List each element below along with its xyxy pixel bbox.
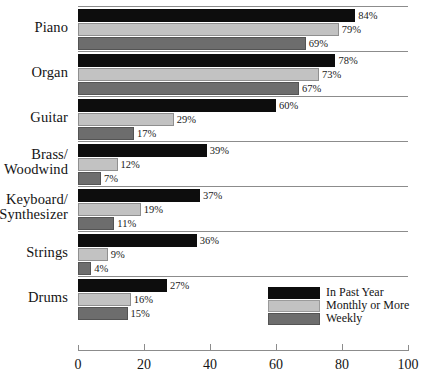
bar-value-label: 7% bbox=[101, 172, 118, 185]
legend-color-swatch bbox=[268, 287, 320, 299]
category-label-line: Woodwind bbox=[0, 162, 68, 177]
bar-weekly bbox=[78, 172, 101, 185]
category-label-line: Brass/ bbox=[0, 147, 68, 162]
group-separator-line bbox=[78, 186, 408, 187]
axis-tick-label: 100 bbox=[388, 357, 421, 373]
bar-value-label: 4% bbox=[91, 262, 108, 275]
bar-value-label: 16% bbox=[131, 293, 153, 306]
bar-monthly-or-more bbox=[78, 158, 118, 171]
bar-monthly-or-more bbox=[78, 203, 141, 216]
bar-value-label: 69% bbox=[306, 37, 328, 50]
bar-value-label: 17% bbox=[134, 127, 156, 140]
category-label: Brass/Woodwind bbox=[0, 147, 68, 177]
axis-tick-label: 80 bbox=[322, 357, 362, 373]
chart-group-row: Piano84%79%69% bbox=[0, 6, 421, 51]
bar-value-label: 60% bbox=[276, 99, 298, 112]
bar-value-label: 15% bbox=[128, 307, 150, 320]
chart-group-row: Organ78%73%67% bbox=[0, 51, 421, 96]
group-separator-line bbox=[78, 141, 408, 142]
chart-group-row: Guitar60%29%17% bbox=[0, 96, 421, 141]
axis-tick bbox=[144, 344, 145, 350]
bar-value-label: 11% bbox=[114, 217, 136, 230]
group-separator-line bbox=[78, 276, 408, 277]
axis-tick bbox=[210, 344, 211, 350]
group-separator-line bbox=[78, 96, 408, 97]
bar-value-label: 84% bbox=[355, 9, 377, 22]
bar-value-label: 39% bbox=[207, 144, 229, 157]
category-label: Guitar bbox=[0, 110, 68, 125]
category-label-line: Synthesizer bbox=[0, 207, 68, 222]
bar-value-label: 36% bbox=[197, 234, 219, 247]
bar-value-label: 67% bbox=[299, 82, 321, 95]
bar-value-label: 12% bbox=[118, 158, 140, 171]
bar-value-label: 37% bbox=[200, 189, 222, 202]
bar-weekly bbox=[78, 37, 306, 50]
bar-chart: Piano84%79%69%Organ78%73%67%Guitar60%29%… bbox=[0, 0, 421, 385]
group-separator-line bbox=[78, 6, 408, 7]
axis-tick-label: 0 bbox=[58, 357, 98, 373]
legend-color-swatch bbox=[268, 313, 320, 325]
bar-monthly-or-more bbox=[78, 248, 108, 261]
category-label: Keyboard/Synthesizer bbox=[0, 192, 68, 222]
axis-end-cap bbox=[78, 345, 79, 351]
category-label-line: Guitar bbox=[0, 110, 68, 125]
category-label-line: Piano bbox=[0, 20, 68, 35]
bar-in-past-year bbox=[78, 9, 355, 22]
axis-tick-label: 40 bbox=[190, 357, 230, 373]
bar-monthly-or-more bbox=[78, 68, 319, 81]
bar-in-past-year bbox=[78, 279, 167, 292]
axis-end-cap bbox=[408, 345, 409, 351]
bar-value-label: 73% bbox=[319, 68, 341, 81]
group-separator-line bbox=[78, 231, 408, 232]
bar-in-past-year bbox=[78, 234, 197, 247]
category-label-line: Drums bbox=[0, 290, 68, 305]
legend-label: Weekly bbox=[326, 312, 362, 325]
bar-value-label: 9% bbox=[108, 248, 125, 261]
bar-monthly-or-more bbox=[78, 113, 174, 126]
bar-weekly bbox=[78, 82, 299, 95]
axis-tick-label: 20 bbox=[124, 357, 164, 373]
category-label-line: Organ bbox=[0, 65, 68, 80]
bar-in-past-year bbox=[78, 54, 335, 67]
chart-group-row: Keyboard/Synthesizer37%19%11% bbox=[0, 186, 421, 231]
category-label: Piano bbox=[0, 20, 68, 35]
axis-tick-label: 60 bbox=[256, 357, 296, 373]
bar-value-label: 79% bbox=[339, 23, 361, 36]
legend-color-swatch bbox=[268, 300, 320, 312]
bar-value-label: 78% bbox=[335, 54, 357, 67]
group-separator-line bbox=[78, 51, 408, 52]
bar-value-label: 29% bbox=[174, 113, 196, 126]
bar-in-past-year bbox=[78, 144, 207, 157]
bar-in-past-year bbox=[78, 99, 276, 112]
x-axis-line bbox=[78, 350, 408, 351]
axis-tick bbox=[276, 344, 277, 350]
bar-weekly bbox=[78, 262, 91, 275]
category-label: Strings bbox=[0, 245, 68, 260]
bar-value-label: 19% bbox=[141, 203, 163, 216]
category-label: Organ bbox=[0, 65, 68, 80]
bar-value-label: 27% bbox=[167, 279, 189, 292]
category-label-line: Strings bbox=[0, 245, 68, 260]
bar-weekly bbox=[78, 217, 114, 230]
bar-weekly bbox=[78, 127, 134, 140]
category-label-line: Keyboard/ bbox=[0, 192, 68, 207]
bar-weekly bbox=[78, 307, 128, 320]
bar-monthly-or-more bbox=[78, 23, 339, 36]
chart-group-row: Strings36%9%4% bbox=[0, 231, 421, 276]
category-label: Drums bbox=[0, 290, 68, 305]
bar-in-past-year bbox=[78, 189, 200, 202]
bar-monthly-or-more bbox=[78, 293, 131, 306]
axis-tick bbox=[342, 344, 343, 350]
chart-group-row: Brass/Woodwind39%12%7% bbox=[0, 141, 421, 186]
